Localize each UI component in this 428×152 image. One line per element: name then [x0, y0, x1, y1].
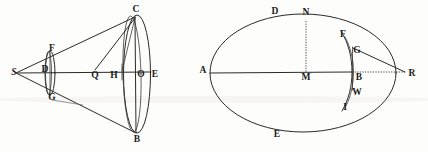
label-right-E: E: [274, 129, 280, 139]
faint-line-near-g: [52, 100, 83, 105]
label-right-D: D: [272, 6, 279, 16]
figures-canvas: S F D G C Q H O E B: [0, 0, 428, 152]
line-s-to-b: [16, 73, 136, 133]
diagram-page: S F D G C Q H O E B: [0, 0, 428, 152]
label-left-H: H: [110, 70, 118, 80]
right-diagram-group: D N F G A M B R W I E: [200, 6, 416, 139]
label-right-R: R: [409, 68, 416, 78]
label-left-D: D: [42, 64, 49, 74]
axis-a-to-b: [210, 72, 352, 73]
label-right-W: W: [352, 87, 362, 97]
axis-s-to-e: [17, 72, 151, 73]
label-right-F: F: [340, 29, 346, 39]
label-right-I: I: [343, 102, 347, 112]
left-diagram-group: S F D G C Q H O E B: [11, 4, 158, 144]
label-left-S: S: [11, 67, 16, 77]
arc-f-g-b-w-i: [341, 31, 352, 111]
chord-c-to-b: [135, 17, 136, 132]
label-right-B: B: [356, 72, 363, 82]
label-left-C: C: [133, 4, 140, 14]
label-right-N: N: [303, 7, 310, 17]
label-left-E: E: [152, 69, 158, 79]
label-left-Q: Q: [91, 70, 98, 80]
label-right-A: A: [200, 65, 207, 75]
label-right-G: G: [353, 45, 361, 55]
label-left-O: O: [137, 69, 144, 79]
line-s-to-c: [16, 17, 135, 73]
label-left-B: B: [134, 134, 141, 144]
label-left-F: F: [49, 43, 55, 53]
label-right-M: M: [302, 72, 311, 82]
line-g-to-r: [353, 48, 405, 72]
label-left-G: G: [48, 92, 56, 102]
